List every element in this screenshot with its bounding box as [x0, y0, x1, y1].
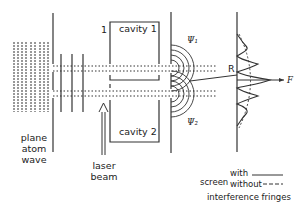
diagram: 1 cavity 1 cavity 2 Ψ₁ Ψ₂ R F plane atom…: [0, 0, 298, 213]
psi-1-label: Ψ₁: [187, 36, 198, 45]
plane-wave-lines: [14, 42, 48, 112]
slit-label: 1: [101, 25, 107, 35]
legend-without-label: without: [230, 180, 262, 189]
point-F-label: F: [287, 76, 293, 85]
envelope-without: [239, 34, 251, 128]
plane-atom-wave-label: plane atom wave: [16, 132, 52, 165]
legend-caption: interference fringes: [207, 193, 291, 202]
beam-path-upper: [53, 66, 216, 71]
laser-beam-label: laser beam: [86, 160, 122, 182]
point-R-label: R: [228, 64, 235, 74]
cavity-1-bottom: [110, 75, 159, 80]
wavefront-ticks: [61, 54, 83, 112]
wave-arcs-upper: [171, 45, 194, 91]
ray-to-R: [190, 75, 237, 81]
legend-with-label: with: [230, 169, 248, 178]
beam-path-lower: [53, 91, 216, 96]
wave-arcs-lower: [171, 71, 194, 117]
cavity-1-label: cavity 1: [119, 24, 157, 34]
psi-2-label: Ψ₂: [187, 118, 198, 127]
cavity-2-label: cavity 2: [119, 127, 157, 137]
legend-screen-label: screen: [200, 178, 228, 187]
laser-arrow: [99, 103, 108, 155]
